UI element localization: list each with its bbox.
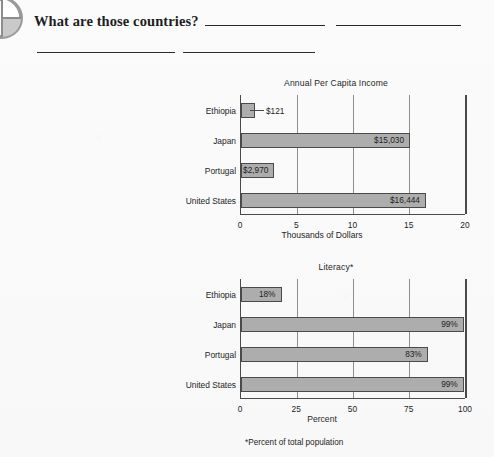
bar-leader-line: [250, 110, 264, 111]
bar-value-label: $15,030: [374, 135, 409, 145]
answer-blank-2[interactable]: [336, 25, 461, 26]
chart-1-right-axis: [465, 95, 466, 214]
chart-1-title: Annual Per Capita Income: [186, 78, 486, 88]
bar-value-label: 83%: [405, 349, 427, 359]
chart-2-title: Literacy*: [186, 262, 486, 272]
bar-united-states[interactable]: 99%: [241, 377, 464, 392]
bar-value-label: 99%: [441, 319, 463, 329]
chart-2-footnote: *Percent of total population: [245, 438, 343, 447]
chart-1-plot-area: $121$15,030$2,970$16,444: [240, 95, 465, 215]
bar-row: 83%: [241, 347, 465, 362]
pie-chart-icon: [0, 0, 30, 44]
chart-2-xtick-100: 100: [445, 404, 485, 414]
category-label-united-states: United States: [184, 381, 236, 389]
bar-value-label: 99%: [441, 379, 463, 389]
bar-row: 99%: [241, 317, 465, 332]
bar-portugal[interactable]: $2,970: [241, 163, 274, 178]
chart-1-xtick-15: 15: [389, 220, 429, 230]
chart-2-xtick-75: 75: [389, 404, 429, 414]
chart-1-xtick-20: 20: [445, 220, 485, 230]
bar-row: 18%: [241, 287, 465, 302]
question-line: What are those countries?: [34, 6, 494, 28]
bar-row: $121: [241, 103, 465, 118]
category-label-portugal: Portugal: [184, 351, 236, 359]
answer-blank-4[interactable]: [183, 52, 315, 53]
answer-blank-3[interactable]: [37, 52, 175, 53]
category-label-japan: Japan: [184, 137, 236, 145]
category-label-portugal: Portugal: [184, 167, 236, 175]
answer-blank-1[interactable]: [205, 25, 325, 26]
bar-value-label: $121: [266, 106, 284, 116]
bar-value-label: $2,970: [243, 165, 273, 175]
chart-literacy: Literacy* 18%99%83%99% Percent *Percent …: [186, 262, 486, 447]
bar-value-label: 18%: [259, 289, 281, 299]
bar-united-states[interactable]: $16,444: [241, 193, 426, 208]
bar-row: $15,030: [241, 133, 465, 148]
chart-2-xtick-25: 25: [276, 404, 316, 414]
bar-value-label: $16,444: [390, 195, 425, 205]
bar-row: $2,970: [241, 163, 465, 178]
chart-1-xtick-0: 0: [220, 220, 260, 230]
chart-1-xlabel: Thousands of Dollars: [172, 230, 472, 240]
chart-2-plot-area: 18%99%83%99%: [240, 279, 465, 399]
answer-line-row: [37, 52, 337, 54]
bar-portugal[interactable]: 83%: [241, 347, 428, 362]
category-label-ethiopia: Ethiopia: [184, 291, 236, 299]
chart-2-right-axis: [465, 279, 466, 398]
bar-ethiopia[interactable]: 18%: [241, 287, 282, 302]
chart-2-xtick-50: 50: [333, 404, 373, 414]
bar-row: 99%: [241, 377, 465, 392]
chart-1-xtick-5: 5: [276, 220, 316, 230]
category-label-united-states: United States: [184, 197, 236, 205]
page-title: What are those countries?: [34, 14, 199, 29]
chart-annual-per-capita-income: Annual Per Capita Income $121$15,030$2,9…: [186, 78, 486, 243]
bar-japan[interactable]: $15,030: [241, 133, 410, 148]
category-label-japan: Japan: [184, 321, 236, 329]
bar-japan[interactable]: 99%: [241, 317, 464, 332]
chart-2-xtick-0: 0: [220, 404, 260, 414]
bar-row: $16,444: [241, 193, 465, 208]
chart-1-xtick-10: 10: [333, 220, 373, 230]
chart-2-xlabel: Percent: [172, 414, 472, 424]
category-label-ethiopia: Ethiopia: [184, 107, 236, 115]
